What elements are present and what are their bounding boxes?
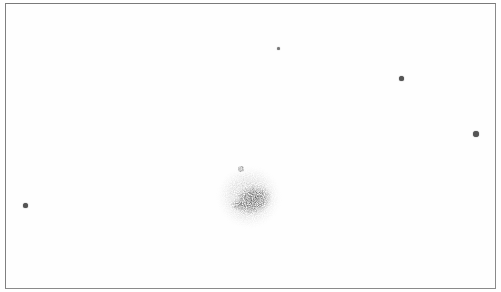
nebula bbox=[0, 0, 501, 292]
